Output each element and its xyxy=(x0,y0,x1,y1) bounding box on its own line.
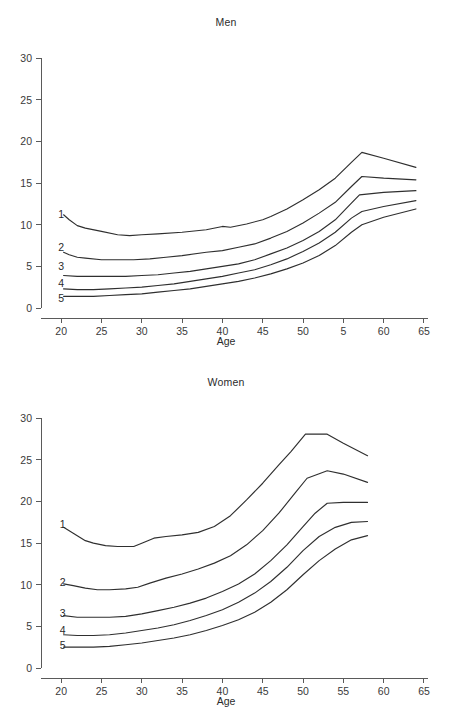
x-axis-label-women: Age xyxy=(0,695,452,707)
x-axis-label-men: Age xyxy=(0,335,452,347)
y-tick-label: 30 xyxy=(20,412,32,424)
y-tick-label: 10 xyxy=(20,579,32,591)
y-tick-label: 0 xyxy=(26,302,32,314)
y-tick-label: 5 xyxy=(26,620,32,632)
curve-label-1: 1 xyxy=(58,208,64,220)
curve-label-1: 1 xyxy=(60,518,66,530)
data-curve-2 xyxy=(64,471,368,590)
y-tick-label: 5 xyxy=(26,260,32,272)
y-tick-label: 15 xyxy=(20,177,32,189)
data-curve-3 xyxy=(64,502,368,617)
y-tick-label: 30 xyxy=(20,52,32,64)
data-curve-5 xyxy=(64,536,368,648)
curve-label-4: 4 xyxy=(60,624,66,636)
y-tick-label: 25 xyxy=(20,454,32,466)
curve-label-5: 5 xyxy=(60,639,66,651)
y-tick-label: 25 xyxy=(20,94,32,106)
curve-label-5: 5 xyxy=(58,292,64,304)
chart-panel-women: Women 0510152025302025303540455055606512… xyxy=(0,360,452,720)
curve-label-3: 3 xyxy=(60,607,66,619)
chart-panel-men: Men 051015202530202530354045505606512345… xyxy=(0,0,452,360)
curve-label-3: 3 xyxy=(58,260,64,272)
curve-label-2: 2 xyxy=(60,576,66,588)
y-tick-label: 20 xyxy=(20,495,32,507)
y-tick-label: 15 xyxy=(20,537,32,549)
y-tick-label: 0 xyxy=(26,662,32,674)
y-tick-label: 20 xyxy=(20,135,32,147)
plot-area-women: 0510152025302025303540455055606512345 xyxy=(0,360,452,720)
figure-container: Men 051015202530202530354045505606512345… xyxy=(0,0,452,721)
curve-label-4: 4 xyxy=(58,277,64,289)
y-tick-label: 10 xyxy=(20,219,32,231)
plot-area-men: 051015202530202530354045505606512345 xyxy=(0,0,452,360)
data-curve-5 xyxy=(64,209,416,296)
data-curve-4 xyxy=(64,522,368,636)
data-curve-1 xyxy=(64,434,368,546)
data-curve-3 xyxy=(64,191,416,277)
curve-label-2: 2 xyxy=(58,241,64,253)
data-curve-2 xyxy=(64,177,416,260)
